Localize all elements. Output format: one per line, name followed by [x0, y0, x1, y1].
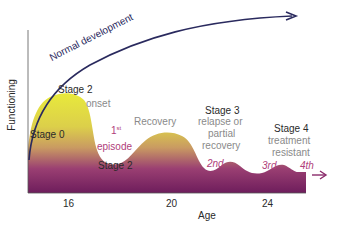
stage4-desc-2: resistant	[272, 148, 310, 158]
illness-staging-diagram	[0, 0, 351, 228]
x-axis-label: Age	[198, 211, 216, 221]
stage0-label: Stage 0	[30, 130, 64, 140]
second-episode-label: 2nd	[207, 159, 224, 169]
stage2-bottom-label: Stage 2	[98, 161, 132, 171]
onset-label: onset	[86, 99, 110, 109]
stage3-desc-3: recovery	[202, 141, 240, 151]
x-tick-16: 16	[63, 199, 74, 209]
first-episode-label: 1st	[111, 125, 121, 136]
stage3-label: Stage 3	[205, 106, 239, 116]
stage4-label: Stage 4	[274, 124, 308, 134]
third-episode-label: 3rd	[262, 161, 276, 171]
functioning-area	[28, 93, 306, 193]
stage3-desc-1: relapse or	[198, 117, 242, 127]
episode-label: episode	[97, 142, 132, 152]
x-tick-24: 24	[262, 199, 273, 209]
x-tick-20: 20	[166, 199, 177, 209]
first-episode-superscript: st	[117, 125, 122, 131]
stage3-desc-2: partial	[208, 129, 235, 139]
stage4-desc-1: treatment	[268, 136, 310, 146]
y-axis-label: Functioning	[7, 79, 17, 131]
recovery-label: Recovery	[134, 117, 176, 127]
fourth-episode-label: 4th	[300, 161, 314, 171]
stage2-top-label: Stage 2	[58, 85, 92, 95]
